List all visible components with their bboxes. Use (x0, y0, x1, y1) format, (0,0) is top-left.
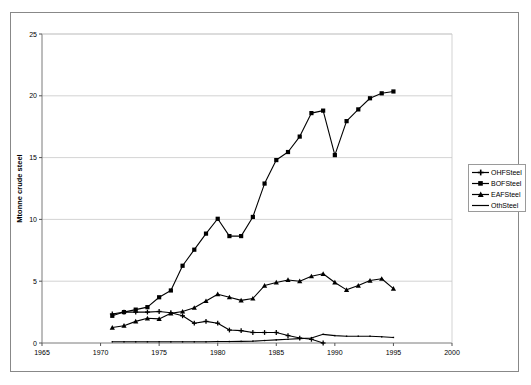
data-point (298, 134, 302, 138)
data-point (123, 341, 124, 342)
y-tick-label: 15 (29, 154, 37, 161)
series-OthSteel (112, 334, 395, 343)
x-tick-label: 1990 (327, 349, 343, 356)
data-point (262, 181, 266, 185)
data-point (286, 150, 290, 154)
data-point (381, 336, 382, 337)
legend-label: OthSteel (491, 200, 518, 211)
data-point (356, 107, 360, 111)
legend-item-eafsteel[interactable]: EAFSteel (469, 189, 525, 200)
data-point (369, 336, 370, 337)
data-point (134, 308, 138, 312)
data-point (180, 264, 184, 268)
data-point (122, 310, 126, 314)
x-tick-label: 1975 (151, 349, 167, 356)
data-point (239, 234, 243, 238)
x-tick-label: 1965 (34, 349, 50, 356)
legend-marker-icon (471, 178, 491, 189)
data-point (264, 340, 265, 341)
y-tick-label: 0 (33, 340, 37, 347)
data-point (217, 341, 218, 342)
data-point (391, 89, 395, 93)
data-point (346, 336, 347, 337)
data-point (321, 271, 326, 276)
x-tick-label: 2000 (444, 349, 460, 356)
data-point (333, 153, 337, 157)
data-point (368, 96, 372, 100)
x-tick-label: 1995 (386, 349, 402, 356)
y-tick-label: 5 (33, 278, 37, 285)
data-point (252, 340, 253, 341)
data-point (311, 337, 312, 338)
series-BOFSteel (110, 89, 395, 318)
data-point (204, 232, 208, 236)
x-tick-label: 1970 (93, 349, 109, 356)
chart-canvas: 0510152025196519701975198019851990199520… (0, 0, 531, 385)
chart-legend: OHFSteelBOFSteelEAFSteelOthSteel (468, 164, 526, 212)
legend-label: BOFSteel (491, 178, 521, 189)
legend-item-ohfsteel[interactable]: OHFSteel (469, 167, 525, 178)
data-point (229, 341, 230, 342)
data-point (322, 334, 323, 335)
data-point (240, 341, 241, 342)
data-point (276, 339, 277, 340)
data-point (358, 336, 359, 337)
data-point (299, 338, 300, 339)
data-point (192, 248, 196, 252)
data-point (158, 341, 159, 342)
series-line (112, 311, 323, 343)
data-point (227, 234, 231, 238)
chart-screenshot: 0510152025196519701975198019851990199520… (0, 0, 531, 385)
data-point (380, 91, 384, 95)
legend-item-bofsteel[interactable]: BOFSteel (469, 178, 525, 189)
data-point (334, 335, 335, 336)
data-point (147, 341, 148, 342)
series-line (112, 91, 393, 315)
data-point (251, 215, 255, 219)
legend-item-othsteel[interactable]: OthSteel (469, 200, 525, 211)
y-tick-label: 10 (29, 216, 37, 223)
data-point (110, 314, 114, 318)
data-point (321, 109, 325, 113)
data-point (203, 298, 208, 303)
data-point (135, 341, 136, 342)
data-point (169, 288, 173, 292)
legend-marker-icon (471, 200, 491, 211)
data-point (309, 111, 313, 115)
data-point (194, 341, 195, 342)
y-tick-label: 25 (29, 31, 37, 38)
data-point (192, 305, 197, 310)
legend-label: EAFSteel (491, 189, 521, 200)
data-point (274, 158, 278, 162)
legend-label: OHFSteel (491, 167, 522, 178)
y-axis-title: Mtonne crude steel (15, 154, 24, 222)
line-chart: 0510152025196519701975198019851990199520… (0, 0, 531, 385)
data-point (216, 217, 220, 221)
data-point (287, 339, 288, 340)
legend-marker-icon (471, 167, 491, 178)
series-OHFSteel (110, 309, 326, 345)
x-tick-label: 1985 (268, 349, 284, 356)
data-point (157, 295, 161, 299)
data-point (112, 341, 113, 342)
x-tick-label: 1980 (210, 349, 226, 356)
data-point (215, 292, 220, 297)
legend-marker-icon (471, 189, 491, 200)
data-point (205, 341, 206, 342)
series-EAFSteel (110, 271, 396, 329)
data-point (170, 341, 171, 342)
data-point (393, 337, 394, 338)
data-point (145, 305, 149, 309)
y-tick-label: 20 (29, 92, 37, 99)
data-point (182, 341, 183, 342)
data-point (344, 119, 348, 123)
